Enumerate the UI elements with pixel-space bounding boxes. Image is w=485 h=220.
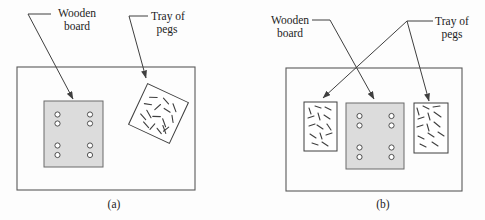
caption-b: (b) (376, 198, 390, 211)
tray-b-right (414, 103, 448, 153)
tray-outline (414, 103, 448, 153)
panel-b: Wooden board Tray of pegs (b) (271, 14, 469, 211)
diagram-canvas: Wooden board Tray of pegs (a) (0, 0, 485, 220)
wooden-board-a (44, 101, 103, 167)
wooden-board-label-a-line2: board (64, 20, 90, 32)
peg-hole (87, 112, 92, 117)
panel-a: Wooden board Tray of pegs (a) (17, 7, 195, 211)
peg-hole (55, 121, 60, 126)
tray-of-pegs-label-a-line2: pegs (156, 23, 178, 36)
tray-of-pegs-label-a-line1: Tray of (151, 10, 185, 23)
peg-hole (87, 121, 92, 126)
leader-tray-b-left (323, 21, 433, 98)
peg-hole (389, 123, 394, 128)
caption-a: (a) (108, 198, 121, 211)
leader-tray-a (129, 16, 148, 78)
peg-hole (357, 154, 362, 159)
tray-of-pegs-label-b-line2: pegs (441, 28, 463, 41)
peg-hole (55, 112, 60, 117)
peg-hole (389, 154, 394, 159)
pegboard-a (44, 101, 103, 167)
leader-tray-b-right (407, 21, 429, 101)
pegboard-b (346, 103, 404, 169)
peg-hole (87, 152, 92, 157)
wooden-board-label-b-line1: Wooden (271, 14, 309, 26)
peg-hole (55, 143, 60, 148)
tray-a (129, 84, 189, 144)
peg-hole (357, 113, 362, 118)
peg-hole (87, 143, 92, 148)
peg-hole (357, 123, 362, 128)
wooden-board-label-b-line2: board (277, 27, 303, 39)
tray-b-left (304, 102, 337, 151)
peg-hole (389, 113, 394, 118)
tray-outline (129, 84, 189, 144)
tray-of-pegs-label-b-line1: Tray of (435, 15, 469, 28)
peg-hole (55, 152, 60, 157)
peg-hole (389, 145, 394, 150)
wooden-board-b (346, 103, 404, 169)
wooden-board-label-a-line1: Wooden (58, 7, 96, 19)
peg-hole (357, 145, 362, 150)
figure-pegboard-diagram: Wooden board Tray of pegs (a) (0, 0, 485, 220)
